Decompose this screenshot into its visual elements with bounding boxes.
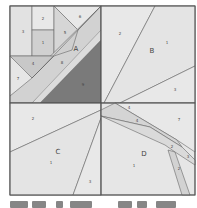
piece-c2-label: 2 — [32, 116, 35, 121]
piece-b2-label: 2 — [119, 31, 122, 36]
block-d-label: D — [141, 150, 146, 158]
piece-a6-label: 6 — [79, 14, 82, 19]
piece-d2a-label: 2 — [171, 144, 174, 149]
piece-a7-label: 7 — [17, 76, 20, 81]
block-c: 2 C 1 3 — [10, 103, 101, 195]
piece-a8-label: 8 — [61, 60, 64, 65]
piece-a9-label: 9 — [82, 82, 85, 87]
piece-a4-label: 4 — [32, 61, 35, 66]
block-b-label: B — [150, 47, 155, 55]
piece-d7-label: 7 — [178, 117, 181, 122]
piece-d1-label: 1 — [133, 163, 136, 168]
piece-d4b-label: 4 — [136, 118, 139, 123]
piece-a5-label: 5 — [64, 30, 67, 35]
quilt-diagram: 3 2 1 5 6 A 4 8 7 9 2 1 B 3 2 C 1 3 — [0, 0, 197, 208]
cropped-caption — [0, 199, 197, 208]
piece-d4a-label: 4 — [128, 105, 131, 110]
piece-a3-label: 3 — [22, 29, 25, 34]
block-d: 4 4 7 2 3 D 1 2 — [101, 103, 195, 195]
piece-a2-label: 2 — [42, 16, 45, 21]
block-b: 2 1 B 3 — [101, 6, 195, 103]
block-a-label: A — [74, 45, 79, 53]
piece-d2b-label: 2 — [178, 166, 181, 171]
piece-d3-label: 3 — [187, 154, 190, 159]
piece-b1-label: 1 — [166, 40, 169, 45]
piece-b3-label: 3 — [174, 87, 177, 92]
piece-c1-label: 1 — [50, 160, 53, 165]
block-c-label: C — [56, 148, 61, 156]
piece-c3-label: 3 — [89, 179, 92, 184]
block-a: 3 2 1 5 6 A 4 8 7 9 — [10, 6, 101, 103]
piece-a1-label: 1 — [42, 40, 45, 45]
